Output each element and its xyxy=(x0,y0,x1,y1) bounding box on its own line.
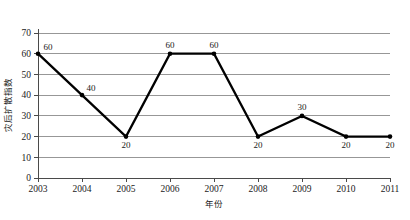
y-tick-labels: 0 10 20 30 40 50 60 70 xyxy=(22,28,32,183)
data-point xyxy=(80,93,85,98)
x-axis-title: 年份 xyxy=(205,199,223,209)
data-point xyxy=(124,134,129,139)
line-chart: 0 10 20 30 40 50 60 70 2003 2004 2005 2 xyxy=(0,0,410,220)
y-tick-label: 20 xyxy=(22,132,32,142)
data-point-label: 20 xyxy=(386,140,396,150)
y-axis-title: 灾后扩散指数 xyxy=(3,78,13,132)
data-point xyxy=(300,114,305,119)
data-point-label: 60 xyxy=(166,40,176,50)
data-point-label: 60 xyxy=(44,42,54,52)
x-tick-labels: 2003 2004 2005 2006 2007 2008 2009 2010 … xyxy=(29,184,400,194)
data-point-label: 20 xyxy=(342,140,352,150)
x-tick-label: 2008 xyxy=(249,184,268,194)
data-point-label: 60 xyxy=(210,40,220,50)
y-tick-label: 70 xyxy=(22,28,32,38)
y-tick-label: 60 xyxy=(22,49,32,59)
x-tick-label: 2003 xyxy=(29,184,48,194)
data-point xyxy=(344,134,349,139)
data-point xyxy=(212,51,217,56)
x-tick-label: 2007 xyxy=(205,184,224,194)
y-tick-label: 10 xyxy=(22,153,32,163)
data-point xyxy=(388,134,393,139)
data-point-label: 20 xyxy=(122,140,132,150)
data-point xyxy=(256,134,261,139)
x-tick-marks xyxy=(38,178,390,182)
y-tick-label: 50 xyxy=(22,70,32,80)
data-point xyxy=(168,51,173,56)
x-tick-label: 2004 xyxy=(73,184,92,194)
x-tick-label: 2005 xyxy=(117,184,136,194)
y-tick-label: 40 xyxy=(22,90,32,100)
data-point-label: 30 xyxy=(298,102,308,112)
y-tick-label: 30 xyxy=(22,111,32,121)
data-point-label: 20 xyxy=(254,140,264,150)
data-point xyxy=(36,51,41,56)
data-point-label: 40 xyxy=(87,83,97,93)
y-tick-label: 0 xyxy=(26,173,31,183)
x-tick-label: 2010 xyxy=(337,184,356,194)
x-tick-label: 2009 xyxy=(293,184,312,194)
x-tick-label: 2006 xyxy=(161,184,180,194)
x-tick-label: 2011 xyxy=(381,184,400,194)
chart-canvas: 0 10 20 30 40 50 60 70 2003 2004 2005 2 xyxy=(0,0,410,220)
